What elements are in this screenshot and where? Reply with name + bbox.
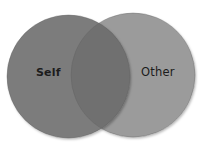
- venn-diagram: Self Other: [0, 0, 202, 149]
- other-label: Other: [141, 67, 175, 79]
- self-label: Self: [36, 67, 61, 78]
